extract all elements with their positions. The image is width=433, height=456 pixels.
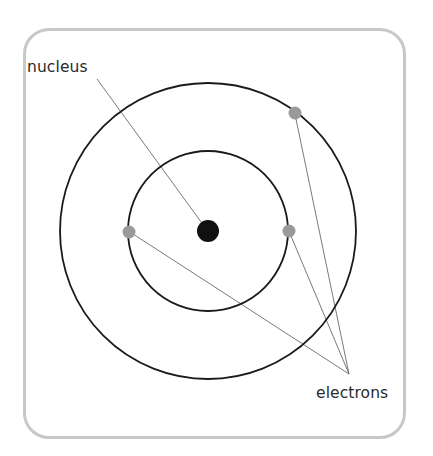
electron-outer-top-right: [289, 107, 302, 120]
nucleus-leader-line: [97, 79, 204, 226]
nucleus: [197, 220, 219, 242]
electrons-label: electrons: [316, 384, 388, 402]
leader-lines: [97, 79, 349, 374]
electron-inner-left: [123, 226, 136, 239]
nucleus-label: nucleus: [27, 58, 88, 76]
electron-leader-line-top: [296, 119, 349, 374]
electron-leader-line-right: [291, 236, 349, 374]
electron-inner-right: [283, 225, 296, 238]
